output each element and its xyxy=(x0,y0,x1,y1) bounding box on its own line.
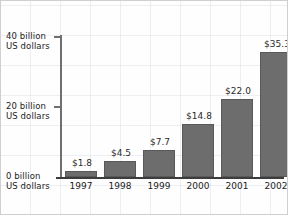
y-axis-label-0: 0 billion US dollars xyxy=(6,171,62,191)
bar[interactable] xyxy=(221,99,253,177)
bar[interactable] xyxy=(260,52,288,177)
y-axis-label-0-line2: US dollars xyxy=(6,181,62,191)
bar-value-label: $1.8 xyxy=(61,158,103,168)
x-axis-label: 2001 xyxy=(217,181,257,191)
y-axis-label-40-line2: US dollars xyxy=(6,41,62,51)
x-axis-label: 2000 xyxy=(178,181,218,191)
chart-frame: 40 billion US dollars 20 billion US doll… xyxy=(0,0,288,215)
x-axis-label: 1997 xyxy=(61,181,101,191)
bar-value-label: $22.0 xyxy=(217,86,259,96)
x-axis-label: 2002 xyxy=(256,181,288,191)
y-axis-label-0-line1: 0 billion xyxy=(6,171,62,181)
bar[interactable] xyxy=(182,124,214,177)
plot-area: $1.8$4.5$7.7$14.8$22.0$35.3 xyxy=(60,35,277,177)
bar-value-label: $4.5 xyxy=(100,148,142,158)
bar-value-label: $14.8 xyxy=(178,111,220,121)
bar-value-label: $35.3 xyxy=(256,39,288,49)
y-axis-label-20-line2: US dollars xyxy=(6,111,62,121)
x-axis-label: 1999 xyxy=(139,181,179,191)
y-axis-label-20: 20 billion US dollars xyxy=(6,101,62,121)
x-axis-line xyxy=(56,177,284,179)
bar[interactable] xyxy=(65,171,97,177)
bar[interactable] xyxy=(104,161,136,177)
bar-value-label: $7.7 xyxy=(139,137,181,147)
y-axis-label-40: 40 billion US dollars xyxy=(6,31,62,51)
x-axis-label: 1998 xyxy=(100,181,140,191)
bar[interactable] xyxy=(143,150,175,177)
